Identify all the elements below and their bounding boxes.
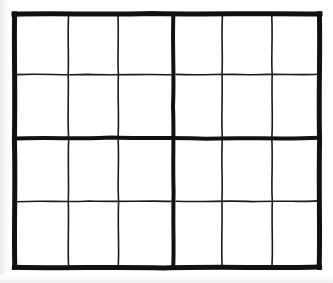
grid-drawing xyxy=(0,0,333,283)
outer-frame-bottom xyxy=(14,267,319,268)
cell-lines-group xyxy=(17,16,317,265)
cell-line-vertical-2 xyxy=(118,16,119,137)
cell-line-horizontal-1 xyxy=(17,74,171,75)
block-divider-vertical-center xyxy=(173,14,174,267)
cell-line-vertical-1 xyxy=(68,16,69,137)
block-divider-group xyxy=(15,14,319,267)
outer-frame-group xyxy=(14,13,320,268)
cell-line-vertical-8 xyxy=(272,140,273,265)
cell-line-vertical-5 xyxy=(222,16,223,137)
cell-line-horizontal-3 xyxy=(17,201,171,202)
cell-line-horizontal-4 xyxy=(176,201,317,202)
outer-frame-top xyxy=(14,13,320,14)
grid-diagram-canvas xyxy=(0,0,333,283)
block-divider-horizontal-center xyxy=(15,138,319,139)
cell-line-vertical-6 xyxy=(272,16,273,137)
